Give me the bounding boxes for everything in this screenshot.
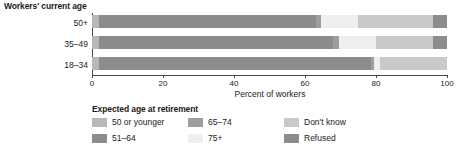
bar-segment: [339, 36, 376, 49]
category-label: 50+: [74, 18, 88, 28]
bar-segment: [433, 36, 447, 49]
legend-items: 50 or younger51–6465–7475+Don't knowRefu…: [92, 117, 452, 147]
legend-swatch-icon: [284, 134, 299, 143]
legend-item[interactable]: 65–74: [188, 117, 232, 127]
x-axis-line: [92, 75, 448, 76]
legend-item-label: 75+: [208, 133, 222, 143]
bar-segment: [99, 36, 333, 49]
x-tick-mark: [376, 75, 377, 78]
group-axis-title: Workers' current age: [4, 1, 87, 11]
x-tick-label: 60: [301, 79, 310, 88]
bar-segment: [99, 57, 371, 70]
legend: Expected age at retirement 50 or younger…: [92, 104, 452, 147]
bar-row: [92, 15, 447, 28]
legend-swatch-icon: [92, 118, 107, 127]
category-label: 35–49: [64, 39, 88, 49]
bar-segment: [321, 15, 358, 28]
bar-segment: [92, 57, 99, 70]
legend-swatch-icon: [188, 134, 203, 143]
legend-item[interactable]: 51–64: [92, 133, 136, 143]
legend-item[interactable]: Don't know: [284, 117, 346, 127]
bar-row: [92, 57, 447, 70]
stacked-bar-chart: Workers' current age 020406080100 50+35–…: [0, 0, 456, 156]
legend-item[interactable]: 50 or younger: [92, 117, 164, 127]
bar-segment: [99, 15, 316, 28]
bar-segment: [380, 57, 447, 70]
x-tick-label: 0: [90, 79, 94, 88]
plot-area: 020406080100: [92, 13, 447, 75]
legend-item-label: 51–64: [112, 133, 136, 143]
bar-segment: [92, 36, 99, 49]
x-tick-label: 80: [372, 79, 381, 88]
bar-segment: [92, 15, 99, 28]
legend-item[interactable]: 75+: [188, 133, 222, 143]
x-tick-label: 20: [159, 79, 168, 88]
legend-title: Expected age at retirement: [92, 104, 452, 114]
legend-item-label: 50 or younger: [112, 117, 164, 127]
x-tick-mark: [305, 75, 306, 78]
legend-item[interactable]: Refused: [284, 133, 336, 143]
legend-item-label: Don't know: [304, 117, 346, 127]
x-tick-mark: [92, 75, 93, 78]
x-tick-label: 100: [440, 79, 453, 88]
x-axis-title: Percent of workers: [92, 89, 448, 99]
bar-segment: [358, 15, 433, 28]
x-tick-mark: [447, 75, 448, 78]
category-label: 18–34: [64, 60, 88, 70]
x-tick-label: 40: [230, 79, 239, 88]
legend-swatch-icon: [188, 118, 203, 127]
bar-segment: [376, 36, 433, 49]
bar-segment: [433, 15, 447, 28]
bar-row: [92, 36, 447, 49]
legend-swatch-icon: [284, 118, 299, 127]
legend-item-label: Refused: [304, 133, 336, 143]
legend-item-label: 65–74: [208, 117, 232, 127]
legend-swatch-icon: [92, 134, 107, 143]
x-tick-mark: [234, 75, 235, 78]
x-tick-mark: [163, 75, 164, 78]
